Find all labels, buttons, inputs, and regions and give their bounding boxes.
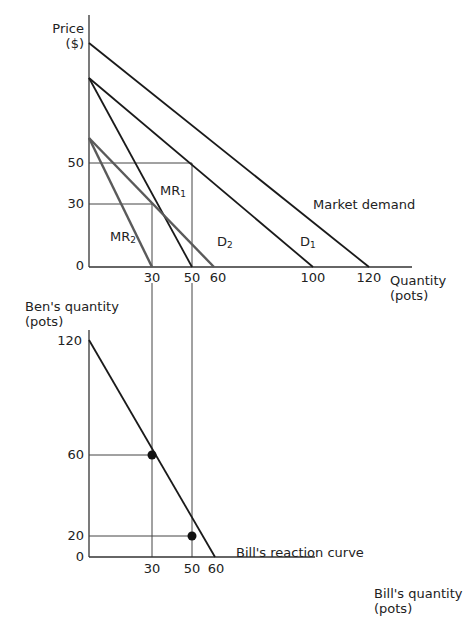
mr1-main: MR [160, 183, 180, 198]
top-x-tick-60: 60 [203, 271, 233, 285]
label-market-demand: Market demand [313, 197, 415, 212]
bottom-y-tick-0: 0 [54, 550, 84, 564]
top-x-tick-30: 30 [137, 271, 167, 285]
x-label-bills-quantity: Bill's quantity [374, 586, 462, 601]
y-label-bens-unit: (pots) [25, 314, 119, 329]
top-x-tick-100: 100 [298, 271, 328, 285]
bottom-y-axis-label: Ben's quantity (pots) [25, 299, 119, 329]
label-d2: D2 [217, 234, 233, 251]
top-x-tick-120: 120 [354, 271, 384, 285]
top-y-tick-50: 50 [54, 156, 84, 170]
d2-sub: 2 [227, 240, 233, 250]
x-label-bills-unit: (pots) [374, 601, 462, 616]
d2-main: D [217, 234, 227, 249]
mr1-curve [89, 78, 192, 267]
mr1-sub: 1 [180, 189, 186, 199]
label-d1: D1 [300, 234, 316, 251]
top-y-tick-30: 30 [54, 197, 84, 211]
bottom-y-tick-20: 20 [54, 529, 84, 543]
mr2-sub: 2 [130, 235, 136, 245]
bottom-x-axis-label: Bill's quantity (pots) [374, 586, 462, 616]
label-mr2: MR2 [110, 229, 136, 246]
y-label-unit: ($) [52, 36, 84, 51]
mr2-curve [89, 138, 152, 267]
bottom-y-tick-120: 120 [52, 334, 82, 348]
x-label-quantity: Quantity [390, 273, 446, 288]
d1-sub: 1 [310, 240, 316, 250]
d1-main: D [300, 234, 310, 249]
top-y-axis-label: Price ($) [52, 21, 84, 51]
bottom-x-tick-60: 60 [201, 562, 231, 576]
top-x-axis-label: Quantity (pots) [390, 273, 446, 303]
point-30-60 [148, 451, 157, 460]
point-50-20 [188, 532, 197, 541]
y-label-price: Price [52, 21, 84, 36]
bottom-y-tick-60: 60 [54, 448, 84, 462]
y-label-bens-quantity: Ben's quantity [25, 299, 119, 314]
label-mr1: MR1 [160, 183, 186, 200]
bottom-x-tick-30: 30 [137, 562, 167, 576]
mr2-main: MR [110, 229, 130, 244]
label-bills-reaction-curve: Bill's reaction curve [236, 545, 364, 560]
top-y-tick-0: 0 [54, 259, 84, 273]
x-label-unit: (pots) [390, 288, 446, 303]
